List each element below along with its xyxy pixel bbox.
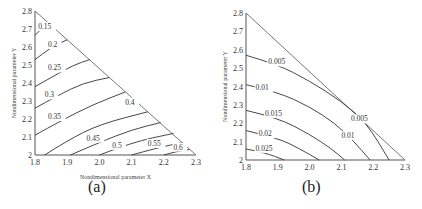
- x-tick-label: 2.2: [368, 163, 378, 172]
- y-tick-label: 2.4: [22, 79, 32, 88]
- contour-label: 0.02: [259, 129, 272, 138]
- contour-label: 0.55: [148, 139, 161, 148]
- contour-label: 0.5: [112, 141, 122, 150]
- y-tick-label: 2.2: [233, 119, 243, 128]
- contour-label: 0.45: [87, 134, 100, 143]
- contour-label: 0.01: [341, 131, 354, 140]
- x-tick-label: 1.9: [273, 163, 283, 172]
- y-tick-label: 2.8: [233, 9, 243, 18]
- contour-label: 0.3: [45, 90, 55, 99]
- contour-label: 0.015: [265, 109, 282, 118]
- y-tick-label: 2.7: [233, 27, 243, 36]
- y-tick-label: 2: [239, 156, 243, 165]
- x-tick-label: 2.1: [127, 158, 137, 167]
- contour-label: 0.2: [48, 40, 58, 49]
- y-axis-label: Nondimensional parameter Y: [11, 47, 17, 118]
- y-tick-label: 2.5: [22, 61, 32, 70]
- x-tick-label: 1.9: [62, 158, 72, 167]
- contour-label: 0.35: [48, 112, 61, 121]
- x-tick-label: 2.2: [159, 158, 169, 167]
- contour-plot-b: 1.81.92.02.12.22.322.12.22.32.42.52.62.7…: [211, 0, 422, 180]
- y-tick-label: 2: [28, 151, 32, 160]
- contour-label: 0.025: [256, 144, 273, 153]
- caption-b: (b): [302, 178, 321, 196]
- y-tick-label: 2.5: [233, 64, 243, 73]
- contour-chart-b: 1.81.92.02.12.22.322.12.22.32.42.52.62.7…: [211, 0, 422, 209]
- y-tick-label: 2.3: [22, 97, 32, 106]
- x-tick-label: 2.3: [400, 163, 410, 172]
- contour-label: 0.6: [173, 143, 183, 152]
- x-tick-label: 2.0: [94, 158, 104, 167]
- contour-label: 0.15: [38, 22, 51, 31]
- contour-label: 0.25: [48, 63, 61, 72]
- contour-plot-a: 1.81.92.02.12.22.322.12.22.32.42.52.62.7…: [0, 0, 211, 180]
- x-tick-label: 2.3: [191, 158, 201, 167]
- y-tick-label: 2.1: [22, 133, 32, 142]
- x-tick-label: 2.1: [336, 163, 346, 172]
- contour-label: 0.005: [351, 114, 368, 123]
- y-axis-label: Nondimensional parameter Y: [222, 50, 228, 121]
- y-tick-label: 2.6: [233, 46, 243, 55]
- y-tick-label: 2.3: [233, 101, 243, 110]
- y-tick-label: 2.4: [233, 83, 243, 92]
- contour-label: 0.005: [268, 57, 285, 66]
- contour-chart-a: 1.81.92.02.12.22.322.12.22.32.42.52.62.7…: [0, 0, 211, 209]
- contour-label: 0.4: [125, 98, 135, 107]
- y-tick-label: 2.1: [233, 138, 243, 147]
- y-tick-label: 2.7: [22, 25, 32, 34]
- contour-label: 0.01: [256, 83, 269, 92]
- y-tick-label: 2.2: [22, 115, 32, 124]
- y-tick-label: 2.8: [22, 7, 32, 16]
- y-tick-label: 2.6: [22, 43, 32, 52]
- x-tick-label: 2.0: [305, 163, 315, 172]
- x-axis-label: Nondimensional parameter X: [290, 179, 362, 180]
- caption-a: (a): [88, 178, 106, 196]
